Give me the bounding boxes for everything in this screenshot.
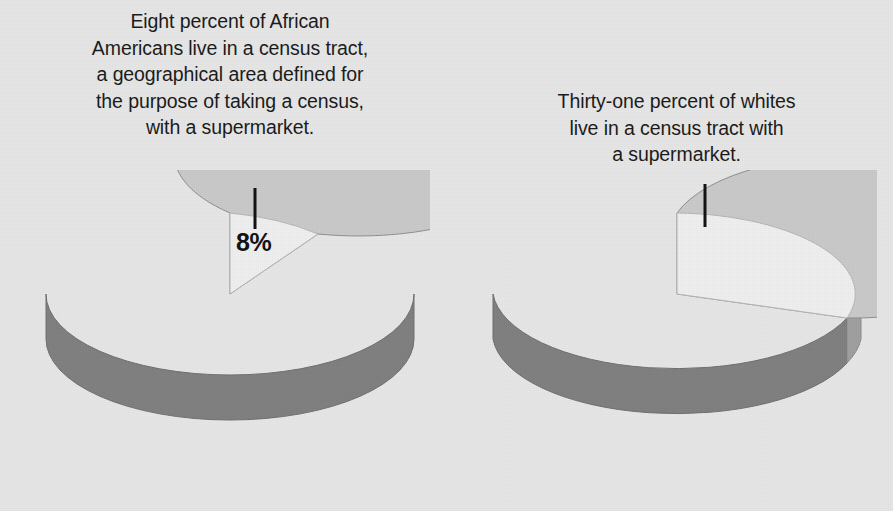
two-pie-chart-figure: Eight percent of African Americans live … bbox=[0, 0, 893, 511]
pie-panel-african-americans: Eight percent of African Americans live … bbox=[0, 0, 460, 511]
pie-chart-whites bbox=[460, 170, 893, 500]
value-label-african-americans: 8% bbox=[236, 228, 272, 257]
caption-whites: Thirty-one percent of whites live in a c… bbox=[460, 88, 893, 168]
pie-svg-whites bbox=[477, 170, 877, 480]
pie-side-remainder-2 bbox=[493, 294, 847, 414]
pie-panel-whites: Thirty-one percent of whites live in a c… bbox=[460, 0, 893, 511]
pie-svg-african-americans bbox=[30, 170, 430, 480]
caption-african-americans: Eight percent of African Americans live … bbox=[0, 8, 460, 141]
pie-side-remainder bbox=[46, 294, 414, 420]
pie-chart-african-americans bbox=[0, 170, 460, 500]
